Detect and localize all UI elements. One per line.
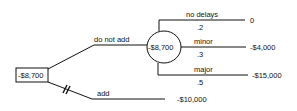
outcome-label-major: major xyxy=(194,66,213,74)
outcome-value-minor: -$4,000 xyxy=(250,44,275,52)
add-outcome-value: -$10,000 xyxy=(177,96,207,104)
chance-node-value: -$8,700 xyxy=(148,44,173,52)
branch-label-do-not-add: do not add xyxy=(94,36,129,44)
outcome-value-major: -$15,000 xyxy=(252,72,282,80)
outcome-prob-minor: .3 xyxy=(197,51,203,59)
outcome-label-minor: minor xyxy=(194,38,213,46)
outcome-prob-no-delays: .2 xyxy=(197,24,203,32)
outcome-label-no-delays: no delays xyxy=(186,11,218,19)
outcome-value-no-delays: 0 xyxy=(250,17,254,25)
decision-tree: -$8,700 do not add add -$10,000 -$8,700 … xyxy=(0,0,297,111)
decision-node-value: -$8,700 xyxy=(18,72,43,80)
branch-label-add: add xyxy=(97,90,110,98)
outcome-prob-major: .5 xyxy=(197,79,203,87)
